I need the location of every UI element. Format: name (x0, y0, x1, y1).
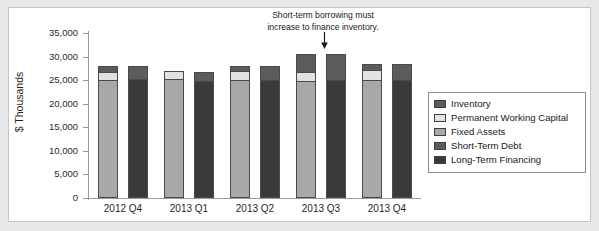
stacked-bar-left[interactable] (296, 54, 316, 198)
legend-item-inventory[interactable]: Inventory (434, 97, 580, 111)
bar-segment-long-term-financing (327, 81, 345, 197)
down-arrow-icon (320, 32, 329, 49)
inventory-swatch (434, 100, 446, 108)
bar-segment-short-term-debt (327, 55, 345, 82)
bar-segment-permanent-working-capital (231, 72, 249, 81)
x-axis-tick-label: 2013 Q4 (342, 203, 432, 214)
y-axis-tick-label: 15,000 (16, 122, 78, 132)
stacked-bar-right[interactable] (260, 66, 280, 198)
long-term-financing-swatch (434, 156, 446, 164)
bar-segment-long-term-financing (129, 80, 147, 197)
annotation-callout: Short-term borrowing must increase to fi… (248, 10, 398, 33)
stacked-bar-left[interactable] (362, 64, 382, 198)
bar-group (296, 33, 348, 198)
legend: InventoryPermanent Working CapitalFixed … (428, 92, 586, 173)
fixed-assets-swatch (434, 128, 446, 136)
legend-item-permanent-working-capital[interactable]: Permanent Working Capital (434, 111, 580, 125)
chart-figure: $ Thousands 35,00030,00025,00020,00015,0… (0, 0, 599, 231)
stacked-bar-left[interactable] (164, 71, 184, 198)
legend-label: Inventory (451, 99, 490, 109)
y-axis-tick (83, 57, 88, 58)
bar-segment-short-term-debt (195, 73, 213, 81)
bar-group (362, 33, 414, 198)
y-axis-tick-label: 0 (16, 193, 78, 203)
y-axis-tick (83, 198, 88, 199)
y-axis-tick-label: 25,000 (16, 75, 78, 85)
y-axis-tick (83, 33, 88, 34)
y-axis-tick (83, 127, 88, 128)
stacked-bar-left[interactable] (98, 66, 118, 198)
stacked-bar-left[interactable] (230, 66, 250, 198)
stacked-bar-right[interactable] (392, 64, 412, 198)
bar-segment-fixed-assets (99, 81, 117, 197)
bar-segment-short-term-debt (393, 65, 411, 81)
x-axis-line (88, 198, 421, 199)
bar-segment-fixed-assets (165, 80, 183, 197)
y-axis-tick (83, 174, 88, 175)
legend-item-long-term-financing[interactable]: Long-Term Financing (434, 153, 580, 167)
bar-group (164, 33, 216, 198)
bar-segment-fixed-assets (231, 81, 249, 197)
y-axis-tick-label: 10,000 (16, 146, 78, 156)
y-axis-tick-labels: 35,00030,00025,00020,00015,00010,0005,00… (14, 0, 78, 231)
stacked-bar-right[interactable] (128, 66, 148, 198)
legend-item-short-term-debt[interactable]: Short-Term Debt (434, 139, 580, 153)
bar-segment-short-term-debt (261, 67, 279, 81)
bar-segment-fixed-assets (363, 81, 381, 197)
legend-label: Permanent Working Capital (451, 113, 568, 123)
plot-area (88, 33, 420, 198)
y-axis-tick-label: 5,000 (16, 169, 78, 179)
bar-group (230, 33, 282, 198)
bar-segment-short-term-debt (129, 67, 147, 81)
permanent-working-capital-swatch (434, 114, 446, 122)
y-axis-tick-label: 20,000 (16, 99, 78, 109)
y-axis-tick (83, 104, 88, 105)
bar-segment-long-term-financing (393, 81, 411, 197)
legend-label: Long-Term Financing (451, 155, 541, 165)
bar-group (98, 33, 150, 198)
y-axis-tick (83, 80, 88, 81)
bar-segment-permanent-working-capital (99, 73, 117, 81)
bar-segment-permanent-working-capital (297, 73, 315, 82)
legend-item-fixed-assets[interactable]: Fixed Assets (434, 125, 580, 139)
bar-segment-permanent-working-capital (165, 72, 183, 80)
bar-segment-long-term-financing (195, 82, 213, 198)
y-axis-tick-label: 30,000 (16, 52, 78, 62)
legend-label: Fixed Assets (451, 127, 505, 137)
bar-segment-inventory (297, 55, 315, 73)
short-term-debt-swatch (434, 142, 446, 150)
y-axis-tick-label: 35,000 (16, 28, 78, 38)
stacked-bar-right[interactable] (326, 54, 346, 198)
legend-label: Short-Term Debt (451, 141, 521, 151)
bar-segment-fixed-assets (297, 82, 315, 197)
annotation-line-1: Short-term borrowing must (248, 10, 398, 22)
y-axis-tick (83, 151, 88, 152)
stacked-bar-right[interactable] (194, 72, 214, 198)
bar-segment-long-term-financing (261, 81, 279, 197)
bar-segment-permanent-working-capital (363, 71, 381, 81)
